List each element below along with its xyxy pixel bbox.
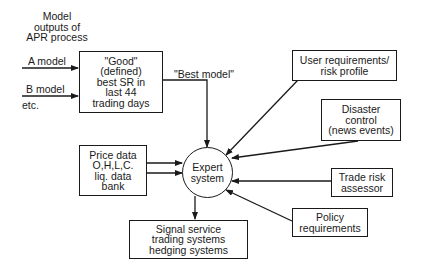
box-text: Policy	[316, 212, 344, 223]
heading-line: Model	[20, 11, 94, 22]
box-text: bank	[102, 181, 125, 192]
b-model-label: B model	[26, 84, 65, 95]
box-text: risk profile	[321, 66, 369, 77]
node-text: Expert	[192, 162, 222, 173]
disaster-control-box: Disaster control (news events)	[321, 99, 401, 141]
etc-label: etc.	[22, 100, 39, 111]
expert-system-node: Expert system	[182, 147, 233, 198]
a-model-label: A model	[28, 56, 66, 67]
box-text: assessor	[341, 183, 383, 194]
good-model-box: "Good" (defined) best SR in last 44 trad…	[79, 51, 163, 113]
heading-line: APR process	[20, 32, 94, 43]
box-text: O,H,L,C.	[93, 160, 134, 171]
box-text: User requirements/	[300, 55, 389, 66]
box-text: Trade risk	[339, 172, 385, 183]
box-text: hedging systems	[149, 245, 228, 256]
apr-process-heading: Model outputs of APR process	[20, 11, 94, 43]
best-model-label: "Best model"	[174, 69, 234, 80]
box-text: (news events)	[328, 125, 393, 136]
signal-service-box: Signal service trading systems hedging s…	[129, 220, 248, 259]
box-text: requirements	[299, 223, 360, 234]
policy-requirements-box: Policy requirements	[292, 208, 368, 237]
user-requirements-box: User requirements/ risk profile	[292, 50, 397, 81]
price-data-box: Price data O,H,L,C. liq. data bank	[79, 145, 147, 196]
node-text: system	[191, 173, 224, 184]
box-text: trading days	[92, 98, 149, 109]
trade-risk-assessor-box: Trade risk assessor	[331, 168, 393, 197]
